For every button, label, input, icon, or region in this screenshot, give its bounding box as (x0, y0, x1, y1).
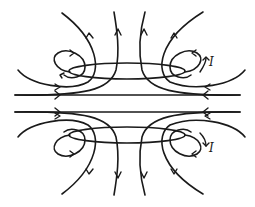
lower-current-arrow-icon (200, 133, 209, 146)
upper-right-inner-loop (170, 50, 201, 78)
upper-left-middle-line (18, 13, 95, 90)
lower-right-middle-line (162, 113, 245, 194)
diagram-canvas: I I (0, 0, 255, 207)
upper-current-loop (69, 63, 185, 79)
upper-left-outer-line (15, 12, 121, 95)
upper-current-label: I (208, 55, 214, 69)
field-diagram: I I (0, 0, 255, 207)
lower-left-outer-line (15, 112, 121, 195)
upper-right-middle-line (162, 12, 245, 90)
upper-left-inner-loop (54, 50, 85, 78)
lower-current-label: I (208, 141, 214, 155)
lower-right-inner-loop (170, 129, 201, 157)
lower-current-loop (69, 127, 185, 143)
